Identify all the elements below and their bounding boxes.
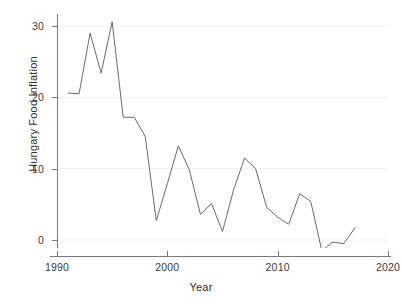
- x-tick-label: 2000: [147, 262, 187, 273]
- x-tick-mark: [167, 251, 168, 257]
- y-axis-title: Hungary Food Inflation: [27, 19, 39, 209]
- y-tick-label: 0: [38, 235, 44, 246]
- x-tick-mark: [278, 251, 279, 257]
- x-tick-mark: [388, 251, 389, 257]
- y-tick-mark: [52, 169, 58, 170]
- y-tick-mark: [52, 26, 58, 27]
- x-tick-label: 2020: [368, 262, 402, 273]
- x-axis-title: Year: [0, 281, 402, 293]
- gridlines-group: [57, 26, 388, 240]
- x-tick-label: 1990: [37, 262, 77, 273]
- y-axis-spine: [57, 14, 58, 248]
- plot-area: [57, 8, 388, 248]
- data-series-line: [68, 22, 355, 248]
- y-tick-mark: [52, 97, 58, 98]
- x-axis-spine: [50, 256, 391, 257]
- chart-plot-svg: [57, 8, 388, 248]
- x-tick-label: 2010: [258, 262, 298, 273]
- x-tick-mark: [57, 251, 58, 257]
- y-tick-mark: [52, 240, 58, 241]
- chart-figure: 0102030 1990200020102020 Hungary Food In…: [0, 0, 402, 304]
